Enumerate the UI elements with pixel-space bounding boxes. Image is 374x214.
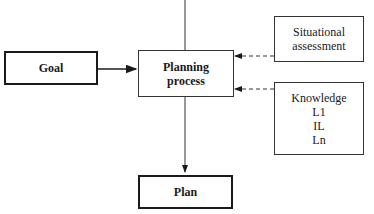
plan-label: Plan xyxy=(174,185,197,199)
knowledge-label-line2: L1 xyxy=(312,105,325,119)
knowledge-label-line1: Knowledge xyxy=(291,91,346,105)
situational-label-line1: Situational xyxy=(293,25,345,39)
knowledge-label-line4: Ln xyxy=(312,133,325,147)
plan-box: Plan xyxy=(138,175,233,209)
planning-label-line1: Planning xyxy=(163,60,209,74)
planning-process-box: Planning process xyxy=(138,50,234,97)
situational-assessment-box: Situational assessment xyxy=(274,16,364,62)
knowledge-box: Knowledge L1 IL Ln xyxy=(274,82,364,155)
goal-label: Goal xyxy=(39,61,64,75)
planning-label-line2: process xyxy=(167,74,205,88)
situational-label-line2: assessment xyxy=(292,39,345,53)
goal-box: Goal xyxy=(4,51,98,85)
knowledge-label-line3: IL xyxy=(313,119,324,133)
